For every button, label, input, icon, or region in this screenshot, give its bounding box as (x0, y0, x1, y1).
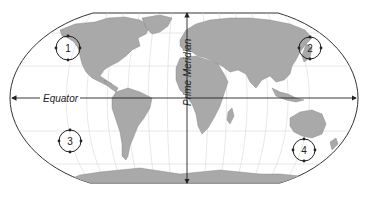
world-map: Equator Prime Meridian 1 2 3 (0, 0, 365, 198)
equator-label: Equator (43, 93, 79, 104)
marker-1-label: 1 (65, 43, 71, 54)
marker-3-label: 3 (67, 136, 73, 147)
marker-2-label: 2 (307, 43, 313, 54)
prime-meridian-label: Prime Meridian (182, 38, 193, 106)
marker-4-label: 4 (301, 145, 307, 156)
